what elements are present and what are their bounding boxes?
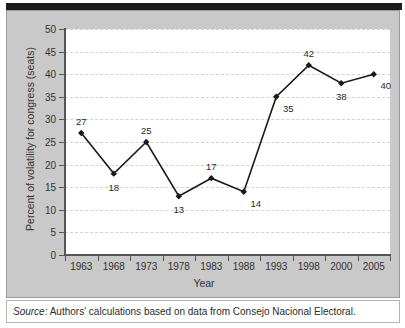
data-point-marker[interactable]: [208, 175, 214, 181]
y-axis-tick-label: 0: [50, 250, 56, 261]
y-axis-tick-label: 20: [45, 159, 56, 170]
volatility-line-series: [65, 29, 390, 255]
data-point-marker[interactable]: [338, 80, 344, 86]
y-axis-tick: [59, 142, 64, 143]
data-point-marker[interactable]: [241, 189, 247, 195]
y-axis-tick-label: 5: [50, 227, 56, 238]
y-axis-tick: [59, 187, 64, 188]
chart-figure: 05101520253035404550 1963196819731978198…: [0, 0, 405, 328]
x-axis-tick-label: 1988: [233, 261, 255, 272]
x-axis-tick: [228, 256, 229, 261]
x-axis-tick-label: 1968: [103, 261, 125, 272]
y-axis-tick: [59, 97, 64, 98]
data-point-label: 17: [206, 161, 217, 172]
x-axis-tick: [130, 256, 131, 261]
y-axis-tick: [59, 210, 64, 211]
y-axis-tick: [59, 165, 64, 166]
data-point-label: 42: [303, 48, 314, 59]
y-axis-tick-label: 50: [45, 24, 56, 35]
x-axis-tick: [325, 256, 326, 261]
y-axis-tick-label: 15: [45, 182, 56, 193]
x-axis-tick-label: 1983: [200, 261, 222, 272]
y-axis-tick-label: 25: [45, 137, 56, 148]
y-axis-tick-label: 40: [45, 69, 56, 80]
x-axis-tick-label: 1963: [70, 261, 92, 272]
y-axis-tick-label: 10: [45, 204, 56, 215]
x-axis-tick: [358, 256, 359, 261]
data-point-marker[interactable]: [371, 71, 377, 77]
x-axis-tick-label: 2005: [363, 261, 385, 272]
data-point-label: 14: [250, 197, 261, 208]
y-axis-tick: [59, 232, 64, 233]
source-prefix: Source:: [13, 306, 47, 317]
source-note-text: Source: Authors' calculations based on d…: [13, 306, 356, 317]
x-axis-tick: [163, 256, 164, 261]
y-axis-tick-label: 30: [45, 114, 56, 125]
x-axis-tick: [293, 256, 294, 261]
data-point-label: 35: [283, 102, 294, 113]
y-axis-tick-label: 35: [45, 91, 56, 102]
y-axis-tick: [59, 52, 64, 53]
x-axis-tick-label: 1998: [298, 261, 320, 272]
y-axis-title: Percent of volatility for congress (seat…: [24, 39, 36, 239]
x-axis-tick: [195, 256, 196, 261]
source-note: Source: Authors' calculations based on d…: [6, 300, 400, 323]
data-point-label: 38: [336, 91, 347, 102]
x-axis-title: Year: [7, 277, 401, 289]
data-point-label: 13: [173, 204, 184, 215]
x-axis-tick: [260, 256, 261, 261]
x-axis-tick-label: 1973: [135, 261, 157, 272]
y-axis-tick: [59, 29, 64, 30]
y-axis-tick: [59, 255, 64, 256]
source-body: Authors' calculations based on data from…: [50, 306, 356, 317]
plot-area: [65, 29, 390, 255]
top-black-bar: [6, 3, 402, 10]
data-point-label: 27: [76, 115, 87, 126]
data-point-label: 18: [108, 181, 119, 192]
y-axis-line: [64, 28, 66, 256]
x-axis-tick: [390, 256, 391, 261]
x-axis-tick-label: 2000: [330, 261, 352, 272]
series-line: [81, 65, 374, 196]
data-point-label: 40: [380, 80, 391, 91]
y-axis-tick: [59, 74, 64, 75]
x-axis-tick: [98, 256, 99, 261]
data-point-marker[interactable]: [176, 193, 182, 199]
data-point-label: 25: [141, 125, 152, 136]
chart-card: 05101520253035404550 1963196819731978198…: [6, 10, 400, 298]
y-axis-tick: [59, 119, 64, 120]
y-axis-tick-label: 45: [45, 46, 56, 57]
x-axis-tick: [65, 256, 66, 261]
x-axis-tick-label: 1993: [265, 261, 287, 272]
x-axis-tick-label: 1978: [168, 261, 190, 272]
